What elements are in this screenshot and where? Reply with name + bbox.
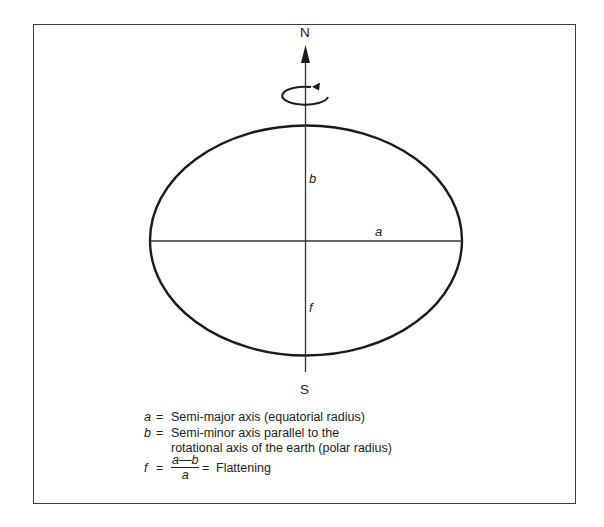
legend-symbol: b <box>144 426 156 440</box>
south-label: S <box>300 383 309 397</box>
flattening-label: f <box>309 301 313 314</box>
legend-text: Semi-minor axis parallel to the <box>171 426 339 440</box>
north-arrow-icon <box>301 45 310 63</box>
fraction-denominator: a <box>171 468 199 482</box>
legend-equals: = <box>156 410 163 424</box>
legend-text: Semi-major axis (equatorial radius) <box>171 410 365 424</box>
legend-equals: = <box>156 461 163 475</box>
north-label: N <box>300 26 310 40</box>
fraction-numerator: a—b <box>171 453 199 468</box>
legend-text: rotational axis of the earth (polar radi… <box>171 441 392 455</box>
semi-major-axis-label: a <box>375 225 382 238</box>
legend-equals-second: = <box>202 461 209 475</box>
flattening-fraction: a—b a <box>171 453 199 482</box>
rotation-arrowhead-icon <box>312 83 320 91</box>
legend-symbol: a <box>144 410 156 424</box>
legend-equals: = <box>156 426 163 440</box>
legend-symbol: f <box>144 461 156 475</box>
legend-text: Flattening <box>216 461 271 475</box>
semi-minor-axis-label: b <box>309 172 316 185</box>
